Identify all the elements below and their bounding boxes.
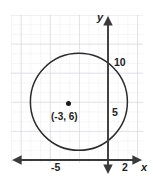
- y-tick-label-5: 5: [112, 107, 118, 118]
- x-axis-label: x: [141, 162, 147, 173]
- center-point-label: (-3, 6): [51, 112, 78, 122]
- grid-lines: [11, 15, 143, 163]
- y-tick-label-10: 10: [114, 57, 126, 68]
- graph-canvas: [0, 0, 153, 182]
- coordinate-plane-circle-graph: y x 10 5 -5 2 (-3, 6): [0, 0, 153, 182]
- x-tick-label-2: 2: [122, 162, 128, 173]
- center-point-marker: [66, 101, 71, 106]
- x-tick-label-neg5: -5: [51, 162, 60, 173]
- y-axis-label: y: [97, 12, 103, 23]
